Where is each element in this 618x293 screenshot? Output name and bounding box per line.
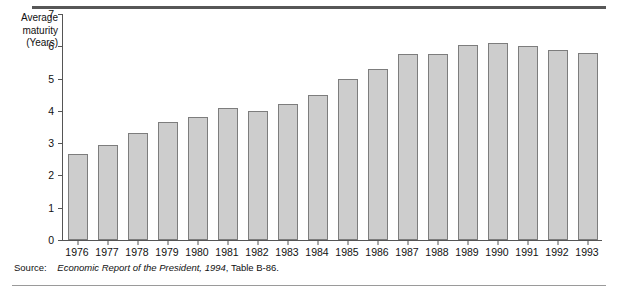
bar-1988[interactable] — [428, 54, 448, 240]
x-tick-label-1986: 1986 — [365, 246, 388, 258]
bar-slot — [243, 14, 273, 240]
x-tick-label-1980: 1980 — [185, 246, 208, 258]
x-tick-mark — [558, 240, 559, 245]
bar-1983[interactable] — [278, 104, 298, 240]
bar-1985[interactable] — [338, 79, 358, 240]
bar-slot — [93, 14, 123, 240]
x-tick-mark — [78, 240, 79, 245]
x-tick-mark — [498, 240, 499, 245]
bar-1979[interactable] — [158, 122, 178, 240]
y-tick-label: 7 — [48, 8, 54, 20]
bar-1982[interactable] — [248, 111, 268, 240]
x-tick-mark — [378, 240, 379, 245]
bar-1981[interactable] — [218, 108, 238, 240]
source-tail: , Table B-86. — [226, 262, 279, 273]
bar-slot — [513, 14, 543, 240]
y-tick-label: 5 — [48, 73, 54, 85]
bar-1991[interactable] — [518, 46, 538, 240]
x-tick-mark — [288, 240, 289, 245]
x-tick-mark — [198, 240, 199, 245]
x-tick-mark — [588, 240, 589, 245]
x-tick-label-1977: 1977 — [95, 246, 118, 258]
x-tick-mark — [108, 240, 109, 245]
bar-1977[interactable] — [98, 145, 118, 240]
x-tick-mark — [138, 240, 139, 245]
bar-1992[interactable] — [548, 50, 568, 240]
bar-slot — [543, 14, 573, 240]
y-tick-label: 6 — [48, 40, 54, 52]
y-tick-label: 2 — [48, 169, 54, 181]
bar-slot — [123, 14, 153, 240]
x-tick-mark — [168, 240, 169, 245]
y-tick-label: 1 — [48, 202, 54, 214]
x-tick-label-1988: 1988 — [425, 246, 448, 258]
x-tick-label-1982: 1982 — [245, 246, 268, 258]
x-tick-label-1985: 1985 — [335, 246, 358, 258]
x-axis-line — [62, 240, 602, 241]
x-tick-label-1978: 1978 — [125, 246, 148, 258]
bar-slot — [453, 14, 483, 240]
x-tick-mark — [348, 240, 349, 245]
y-axis-title-line-2: maturity — [6, 25, 58, 38]
x-tick-mark — [408, 240, 409, 245]
bar-slot — [393, 14, 423, 240]
bar-slot — [213, 14, 243, 240]
source-title: Economic Report of the President, 1994 — [57, 262, 225, 273]
source-note: Source: Economic Report of the President… — [14, 262, 279, 273]
bar-slot — [333, 14, 363, 240]
bar-1984[interactable] — [308, 95, 328, 240]
x-tick-label-1984: 1984 — [305, 246, 328, 258]
source-label: Source: — [14, 262, 47, 273]
y-tick-label: 4 — [48, 105, 54, 117]
bar-1978[interactable] — [128, 133, 148, 240]
x-tick-label-1991: 1991 — [515, 246, 538, 258]
x-tick-label-1976: 1976 — [65, 246, 88, 258]
x-tick-label-1989: 1989 — [455, 246, 478, 258]
bar-1990[interactable] — [488, 43, 508, 240]
y-tick-label: 0 — [48, 234, 54, 246]
x-tick-mark — [528, 240, 529, 245]
bar-slot — [363, 14, 393, 240]
x-tick-label-1987: 1987 — [395, 246, 418, 258]
bar-1993[interactable] — [578, 53, 598, 240]
x-tick-label-1993: 1993 — [575, 246, 598, 258]
x-tick-mark — [438, 240, 439, 245]
bar-1976[interactable] — [68, 154, 88, 240]
bar-1989[interactable] — [458, 45, 478, 240]
bar-slot — [273, 14, 303, 240]
x-tick-mark — [258, 240, 259, 245]
y-tick-label: 3 — [48, 137, 54, 149]
bar-slot — [573, 14, 603, 240]
x-tick-label-1981: 1981 — [215, 246, 238, 258]
chart-figure: Average maturity (Years) 01234567 197619… — [0, 0, 618, 293]
bar-slot — [153, 14, 183, 240]
bar-slot — [303, 14, 333, 240]
bar-1980[interactable] — [188, 117, 208, 240]
bar-1987[interactable] — [398, 54, 418, 240]
x-tick-label-1992: 1992 — [545, 246, 568, 258]
x-tick-label-1979: 1979 — [155, 246, 178, 258]
bar-1986[interactable] — [368, 69, 388, 240]
bar-slot — [423, 14, 453, 240]
top-rule — [32, 6, 606, 9]
x-tick-label-1983: 1983 — [275, 246, 298, 258]
x-tick-mark — [228, 240, 229, 245]
plot-area: 01234567 1976197719781979198019811982198… — [62, 14, 602, 241]
bar-slot — [483, 14, 513, 240]
x-tick-mark — [468, 240, 469, 245]
bar-slot — [183, 14, 213, 240]
x-tick-label-1990: 1990 — [485, 246, 508, 258]
x-tick-mark — [318, 240, 319, 245]
bar-slot — [63, 14, 93, 240]
y-tick-mark — [58, 240, 63, 241]
bar-series — [63, 14, 602, 240]
bottom-rule — [12, 285, 606, 286]
